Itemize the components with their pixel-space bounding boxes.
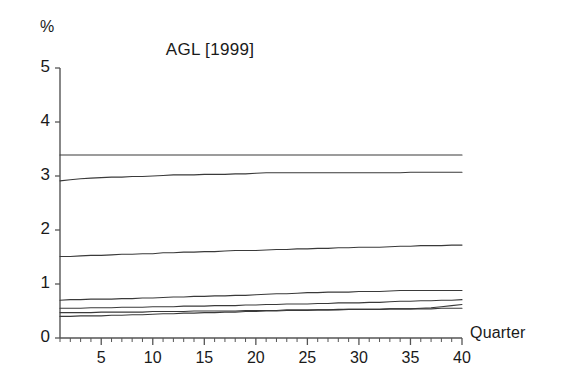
chart-container: % AGL [1999] Quarter 012345 510152025303… bbox=[0, 0, 563, 389]
axis-lines bbox=[60, 68, 462, 338]
plot-area bbox=[0, 0, 563, 389]
y-tick-label: 4 bbox=[24, 111, 50, 131]
x-tick-label: 30 bbox=[344, 349, 374, 367]
axis-ticks bbox=[55, 68, 462, 345]
y-tick-label: 2 bbox=[24, 219, 50, 239]
x-tick-label: 15 bbox=[189, 349, 219, 367]
y-tick-label: 1 bbox=[24, 273, 50, 293]
x-tick-label: 5 bbox=[86, 349, 116, 367]
y-tick-label: 3 bbox=[24, 165, 50, 185]
x-tick-label: 40 bbox=[447, 349, 477, 367]
data-line-5 bbox=[60, 300, 462, 309]
x-tick-label: 25 bbox=[292, 349, 322, 367]
y-tick-label: 0 bbox=[24, 327, 50, 347]
data-series-layer bbox=[60, 155, 462, 316]
x-tick-label: 35 bbox=[395, 349, 425, 367]
x-tick-label: 20 bbox=[241, 349, 271, 367]
x-tick-label: 10 bbox=[138, 349, 168, 367]
data-line-3 bbox=[60, 245, 462, 256]
data-line-4 bbox=[60, 290, 462, 300]
data-line-2 bbox=[60, 172, 462, 181]
y-tick-label: 5 bbox=[24, 57, 50, 77]
